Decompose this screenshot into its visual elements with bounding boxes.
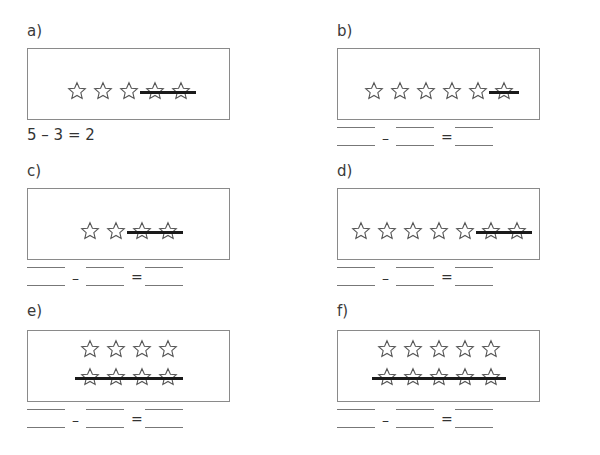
star-icon bbox=[390, 81, 410, 101]
equals-sign: = bbox=[131, 269, 143, 285]
answer-blank-2[interactable] bbox=[396, 145, 434, 146]
minus-sign: – bbox=[382, 130, 389, 146]
answer-blank-3[interactable] bbox=[455, 127, 493, 128]
answer-blank-3[interactable] bbox=[145, 427, 183, 428]
exercise-label: a) bbox=[27, 22, 42, 40]
answer-blank-2[interactable] bbox=[86, 285, 124, 286]
answer-blank-2[interactable] bbox=[86, 409, 124, 410]
equals-sign: = bbox=[131, 411, 143, 427]
answer-blank-3[interactable] bbox=[455, 145, 493, 146]
star-icon bbox=[429, 221, 449, 241]
minus-sign: – bbox=[382, 412, 389, 428]
equals-sign: = bbox=[441, 269, 453, 285]
answer-blank-1[interactable] bbox=[27, 267, 65, 268]
strike-line bbox=[489, 91, 519, 94]
star-box bbox=[337, 48, 540, 120]
answer-blank-3[interactable] bbox=[455, 409, 493, 410]
star-icon bbox=[455, 339, 475, 359]
star-icon bbox=[364, 81, 384, 101]
answer-blank-1[interactable] bbox=[337, 409, 375, 410]
answer-blank-3[interactable] bbox=[145, 285, 183, 286]
star-icon bbox=[158, 339, 178, 359]
star-icon bbox=[377, 221, 397, 241]
star-icon bbox=[455, 221, 475, 241]
star-icon bbox=[403, 339, 423, 359]
strike-line bbox=[476, 231, 532, 234]
star-row bbox=[338, 339, 539, 359]
answer-blank-1[interactable] bbox=[337, 145, 375, 146]
equation-blanks: –= bbox=[27, 409, 230, 431]
star-icon bbox=[377, 339, 397, 359]
star-box bbox=[337, 188, 540, 260]
star-icon bbox=[67, 81, 87, 101]
exercise-label: c) bbox=[27, 162, 41, 180]
star-icon bbox=[106, 339, 126, 359]
star-icon bbox=[481, 339, 501, 359]
exercise-label: f) bbox=[337, 302, 348, 320]
answer-blank-1[interactable] bbox=[337, 127, 375, 128]
equation-blanks: –= bbox=[337, 127, 540, 149]
star-icon bbox=[351, 221, 371, 241]
equation-blanks: –= bbox=[27, 267, 230, 289]
equals-sign: = bbox=[441, 411, 453, 427]
star-icon bbox=[468, 81, 488, 101]
minus-sign: – bbox=[382, 270, 389, 286]
answer-blank-1[interactable] bbox=[27, 409, 65, 410]
answer-blank-1[interactable] bbox=[27, 427, 65, 428]
exercise-label: d) bbox=[337, 162, 352, 180]
answer-blank-2[interactable] bbox=[86, 427, 124, 428]
strike-line bbox=[75, 377, 183, 380]
star-box bbox=[337, 330, 540, 402]
answer-blank-3[interactable] bbox=[145, 409, 183, 410]
star-box bbox=[27, 48, 230, 120]
exercise-label: b) bbox=[337, 22, 352, 40]
answer-equation: 5 – 3 = 2 bbox=[27, 126, 95, 144]
star-icon bbox=[442, 81, 462, 101]
answer-blank-3[interactable] bbox=[455, 285, 493, 286]
answer-blank-2[interactable] bbox=[396, 409, 434, 410]
answer-blank-1[interactable] bbox=[27, 285, 65, 286]
equation-blanks: –= bbox=[337, 409, 540, 431]
answer-blank-2[interactable] bbox=[396, 267, 434, 268]
answer-blank-3[interactable] bbox=[455, 427, 493, 428]
answer-blank-2[interactable] bbox=[396, 427, 434, 428]
star-icon bbox=[403, 221, 423, 241]
equation-blanks: –= bbox=[337, 267, 540, 289]
answer-blank-3[interactable] bbox=[145, 267, 183, 268]
minus-sign: – bbox=[72, 412, 79, 428]
strike-line bbox=[140, 91, 196, 94]
star-icon bbox=[119, 81, 139, 101]
answer-blank-1[interactable] bbox=[337, 285, 375, 286]
star-icon bbox=[80, 339, 100, 359]
star-box bbox=[27, 188, 230, 260]
star-icon bbox=[132, 339, 152, 359]
star-icon bbox=[93, 81, 113, 101]
star-box bbox=[27, 330, 230, 402]
strike-line bbox=[127, 231, 183, 234]
answer-blank-2[interactable] bbox=[86, 267, 124, 268]
minus-sign: – bbox=[72, 270, 79, 286]
answer-blank-3[interactable] bbox=[455, 267, 493, 268]
star-row bbox=[28, 339, 229, 359]
star-icon bbox=[106, 221, 126, 241]
answer-blank-2[interactable] bbox=[396, 127, 434, 128]
equals-sign: = bbox=[441, 129, 453, 145]
answer-blank-1[interactable] bbox=[337, 427, 375, 428]
star-row bbox=[28, 81, 229, 101]
star-icon bbox=[416, 81, 436, 101]
strike-line bbox=[372, 377, 506, 380]
answer-blank-1[interactable] bbox=[337, 267, 375, 268]
answer-blank-2[interactable] bbox=[396, 285, 434, 286]
star-icon bbox=[429, 339, 449, 359]
star-icon bbox=[80, 221, 100, 241]
exercise-label: e) bbox=[27, 302, 42, 320]
